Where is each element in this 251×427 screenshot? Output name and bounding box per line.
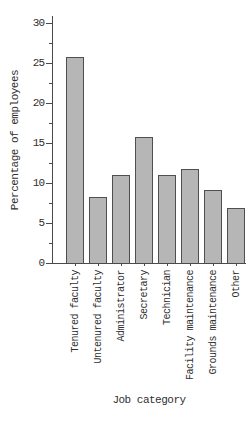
y-tick-label-25: 25: [33, 56, 44, 70]
y-tick-minor-2.5: [49, 243, 53, 244]
y-tick-major-0: [46, 263, 53, 264]
x-labels: Tenured facultyUntenured facultyAdminist…: [53, 263, 246, 403]
y-tick-label-15: 15: [33, 136, 44, 150]
bar-grounds-maintenance: [204, 190, 222, 263]
y-tick-minor-22.5: [49, 83, 53, 84]
y-tick-major-10: [46, 183, 53, 184]
y-tick-label-5: 5: [38, 216, 44, 230]
x-label-technician: Technician: [161, 270, 174, 394]
bar-secretary: [135, 137, 153, 263]
x-label-administrator: Administrator: [115, 270, 128, 394]
y-tick-minor-17.5: [49, 123, 53, 124]
x-label-secretary: Secretary: [138, 270, 151, 394]
x-label-grounds-maintenance: Grounds maintenance: [207, 270, 220, 394]
y-tick-minor-7.5: [49, 203, 53, 204]
y-tick-label-20: 20: [33, 96, 44, 110]
y-tick-major-20: [46, 103, 53, 104]
y-tick-major-15: [46, 143, 53, 144]
y-tick-minor-12.5: [49, 163, 53, 164]
y-tick-label-10: 10: [33, 176, 44, 190]
bar-facility-maintenance: [181, 169, 199, 263]
y-tick-major-30: [46, 23, 53, 24]
x-label-tenured-faculty: Tenured faculty: [69, 270, 82, 394]
y-tick-major-5: [46, 223, 53, 224]
x-label-facility-maintenance: Facility maintenance: [184, 270, 197, 394]
y-tick-major-25: [46, 63, 53, 64]
y-tick-label-0: 0: [38, 256, 44, 270]
bars: [66, 57, 245, 263]
bar-technician: [158, 175, 176, 263]
bar-administrator: [112, 175, 130, 263]
bar-untenured-faculty: [89, 197, 107, 263]
x-label-other: Other: [230, 270, 243, 394]
bar-tenured-faculty: [66, 57, 84, 263]
x-axis-title: Job category: [52, 394, 246, 406]
y-tick-minor-27.5: [49, 43, 53, 44]
plot-area: 051015202530 Tenured facultyUntenured fa…: [52, 16, 246, 264]
bar-chart-figure: Percentage of employees 051015202530 Ten…: [0, 0, 251, 427]
y-tick-label-30: 30: [33, 16, 44, 30]
x-label-untenured-faculty: Untenured faculty: [92, 270, 105, 394]
y-axis-title: Percentage of employees: [9, 70, 21, 210]
bar-other: [227, 208, 245, 263]
